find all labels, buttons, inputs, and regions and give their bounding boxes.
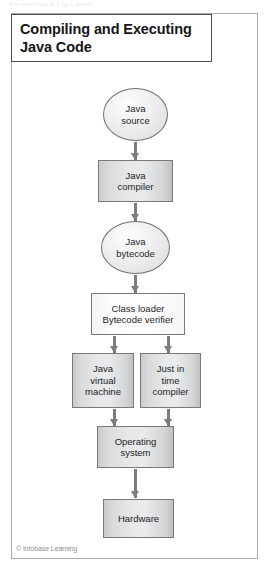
node-java-bytecode-label: Java bytecode xyxy=(116,236,155,259)
node-java-compiler: Java compiler xyxy=(98,160,173,202)
node-hardware: Hardware xyxy=(103,499,174,538)
figure-frame: Java source Java compiler Java bytecode … xyxy=(11,13,258,559)
arrow-jit-compiler-to-operating-system xyxy=(154,409,183,426)
node-jit-compiler-label: Just in time compiler xyxy=(153,363,189,398)
arrow-head xyxy=(164,346,172,353)
node-java-source-label: Java source xyxy=(121,103,150,126)
arrow-java-source-to-java-compiler xyxy=(121,142,150,160)
node-java-virtual-machine-label: Java virtual machine xyxy=(85,363,121,398)
arrow-java-compiler-to-java-bytecode xyxy=(121,203,150,221)
node-java-bytecode: Java bytecode xyxy=(101,221,170,274)
arrow-java-bytecode-to-class-loader xyxy=(121,275,150,293)
node-java-compiler-label: Java compiler xyxy=(118,170,154,193)
arrow-class-loader-to-jit-compiler xyxy=(154,336,183,353)
page-title: Compiling and Executing Java Code xyxy=(20,20,211,56)
node-operating-system-label: Operating system xyxy=(115,436,157,459)
arrow-operating-system-to-hardware xyxy=(121,469,150,498)
arrow-head xyxy=(131,214,139,221)
arrow-head xyxy=(131,286,139,293)
arrow-head xyxy=(131,153,139,160)
node-class-loader-label: Class loader Bytecode verifier xyxy=(103,303,174,326)
arrow-head xyxy=(110,346,118,353)
node-java-virtual-machine: Java virtual machine xyxy=(72,353,134,408)
copyright-credit: © Infobase Learning xyxy=(16,544,77,553)
node-jit-compiler: Just in time compiler xyxy=(140,353,201,408)
arrow-class-loader-to-jvm xyxy=(100,336,129,353)
node-class-loader: Class loader Bytecode verifier xyxy=(91,293,185,335)
arrow-jvm-to-operating-system xyxy=(100,409,129,426)
arrow-head xyxy=(164,419,172,426)
cropped-page-text: the resolution is 1 by 1 pixels xyxy=(9,1,159,8)
figure-title-box: Compiling and Executing Java Code xyxy=(11,14,212,62)
arrow-head xyxy=(110,419,118,426)
node-java-source: Java source xyxy=(103,88,168,141)
arrow-head xyxy=(131,491,139,498)
node-hardware-label: Hardware xyxy=(118,513,159,525)
node-operating-system: Operating system xyxy=(97,426,174,468)
